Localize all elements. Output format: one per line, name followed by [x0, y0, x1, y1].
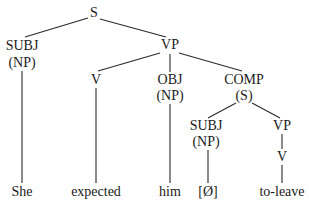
node-s-root: S	[90, 6, 98, 20]
syntax-tree-diagram: S SUBJ (NP) VP V OBJ (NP) COMP (S) SUBJ …	[0, 0, 309, 205]
leaf-expected: expected	[71, 185, 121, 199]
tree-edge	[179, 53, 242, 71]
node-obj: OBJ	[158, 73, 183, 87]
node-v: V	[91, 73, 101, 87]
node-subj-np: (NP)	[8, 56, 35, 70]
node-comp-s: (S)	[235, 89, 252, 103]
tree-edge	[98, 53, 160, 71]
node-obj-np: (NP)	[156, 89, 183, 103]
leaf-she: She	[12, 185, 33, 199]
leaf-null-subject: [Ø]	[198, 185, 217, 199]
leaf-to-leave: to-leave	[259, 185, 304, 199]
tree-edge	[25, 18, 88, 37]
node-vp: VP	[161, 38, 179, 52]
tree-edges	[0, 0, 309, 205]
node-embedded-subj-np: (NP)	[192, 135, 219, 149]
tree-edge	[208, 103, 236, 118]
node-embedded-vp: VP	[273, 119, 291, 133]
leaf-him: him	[159, 185, 181, 199]
node-embedded-subj: SUBJ	[190, 119, 223, 133]
tree-edge	[252, 103, 280, 118]
node-subj: SUBJ	[6, 39, 39, 53]
node-embedded-v: V	[277, 150, 287, 164]
tree-edge	[100, 19, 166, 37]
node-comp: COMP	[224, 73, 264, 87]
